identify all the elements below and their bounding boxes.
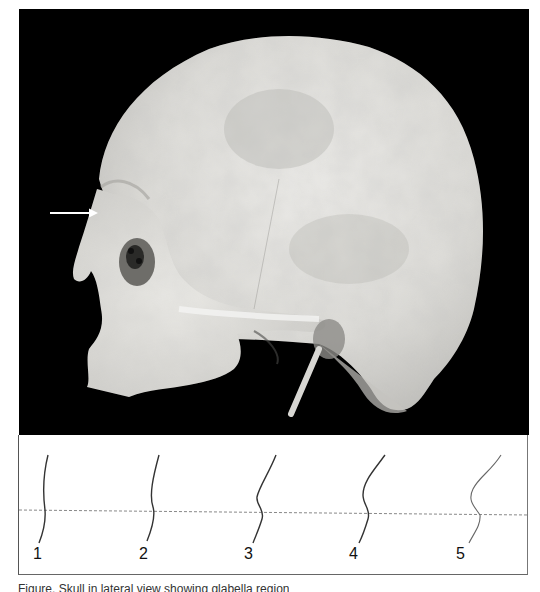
profile-label-3: 3 (244, 545, 253, 563)
profile-label-4: 4 (349, 545, 358, 563)
profile-label-1: 1 (33, 545, 42, 563)
profile-curve-2 (147, 455, 159, 541)
skull-photo-panel (19, 9, 529, 435)
profile-curve-4 (359, 455, 385, 543)
arrow-icon (50, 209, 98, 218)
profile-label-5: 5 (456, 545, 465, 563)
profile-curve-5 (469, 455, 501, 543)
skull-photograph (19, 9, 529, 435)
brow-profile-diagram (19, 435, 529, 575)
profile-curve-3 (253, 455, 276, 543)
profile-curve-1 (39, 455, 48, 543)
reference-dashed-line (19, 510, 529, 515)
figure-caption: Figure. Skull in lateral view showing gl… (18, 581, 289, 592)
brow-profile-panel: 1 2 3 4 5 (18, 435, 528, 575)
profile-label-2: 2 (139, 545, 148, 563)
styloid-process (291, 349, 319, 414)
